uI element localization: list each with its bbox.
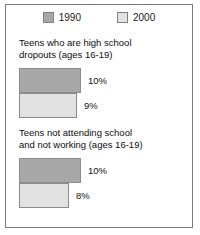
chart-group-dropouts: Teens who are high school dropouts (ages… xyxy=(19,37,187,118)
bar-2000 xyxy=(19,93,77,118)
bar-1990 xyxy=(19,68,81,93)
bar-value-label: 9% xyxy=(84,100,98,111)
bar-value-label: 8% xyxy=(76,190,90,201)
bar-2000 xyxy=(19,183,69,208)
chart-group-bars: 10% 8% xyxy=(19,158,187,208)
chart-group-title: Teens not attending school and not worki… xyxy=(19,127,187,150)
bar-1990 xyxy=(19,158,81,183)
bar-value-label: 10% xyxy=(88,75,107,86)
chart-group-not-attending: Teens not attending school and not worki… xyxy=(19,127,187,208)
chart-figure: 1990 2000 Teens who are high school drop… xyxy=(5,4,193,228)
legend-label-2000: 2000 xyxy=(133,12,155,23)
legend-item-1990: 1990 xyxy=(43,12,81,23)
chart-group-title: Teens who are high school dropouts (ages… xyxy=(19,37,187,60)
bar-row: 8% xyxy=(19,183,187,208)
bar-row: 10% xyxy=(19,158,187,183)
legend-label-1990: 1990 xyxy=(59,12,81,23)
bar-value-label: 10% xyxy=(88,165,107,176)
chart-legend: 1990 2000 xyxy=(6,12,192,23)
legend-swatch-icon-1990 xyxy=(43,12,54,23)
legend-swatch-icon-2000 xyxy=(117,12,128,23)
bar-row: 10% xyxy=(19,68,187,93)
chart-group-bars: 10% 9% xyxy=(19,68,187,118)
bar-row: 9% xyxy=(19,93,187,118)
legend-item-2000: 2000 xyxy=(117,12,155,23)
